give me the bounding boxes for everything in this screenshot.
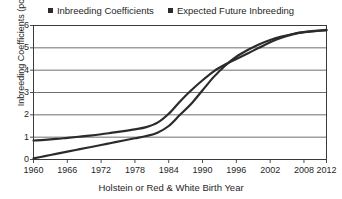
gridlines <box>34 48 327 137</box>
legend-label-expected-future-inbreeding: Expected Future Inbreeding <box>177 5 294 16</box>
legend-square-marker-icon <box>168 8 173 13</box>
x-axis-tick-labels: 1960196619721978198419901996200220082012 <box>0 163 342 177</box>
x-tick-label: 1978 <box>125 165 145 175</box>
series-line-2 <box>34 30 327 141</box>
legend-label-inbreeding-coefficients: Inbreeding Coefficients <box>57 5 154 16</box>
chart-legend: Inbreeding Coefficients Expected Future … <box>0 2 342 18</box>
x-axis-title: Holstein or Red & White Birth Year <box>0 182 342 193</box>
y-tick-label: 2 <box>14 110 29 119</box>
x-tick-label: 1990 <box>193 165 213 175</box>
data-series-lines <box>34 30 327 158</box>
x-tick-label: 1996 <box>226 165 246 175</box>
x-tick-label: 1972 <box>91 165 111 175</box>
y-tick-label: 6 <box>14 21 29 30</box>
x-axis-tick-marks <box>30 26 327 164</box>
x-tick-label: 2008 <box>294 165 314 175</box>
y-tick-label: 5 <box>14 43 29 52</box>
legend-item-expected-future-inbreeding: Expected Future Inbreeding <box>168 5 294 16</box>
x-tick-label: 1984 <box>159 165 179 175</box>
y-tick-label: 4 <box>14 66 29 75</box>
x-tick-label: 1966 <box>57 165 77 175</box>
x-tick-label: 2002 <box>260 165 280 175</box>
y-tick-label: 1 <box>14 133 29 142</box>
legend-item-inbreeding-coefficients: Inbreeding Coefficients <box>48 5 154 16</box>
y-tick-label: 3 <box>14 88 29 97</box>
x-tick-label: 2012 <box>316 165 336 175</box>
series-line-1 <box>34 30 327 158</box>
chart-container: Inbreeding Coefficients Expected Future … <box>0 0 342 199</box>
legend-square-marker-icon <box>48 8 53 13</box>
x-tick-label: 1960 <box>23 165 43 175</box>
